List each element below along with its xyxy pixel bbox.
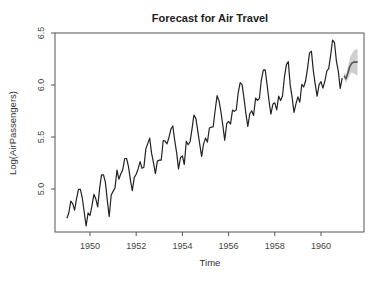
chart: Forecast for Air Travel 5.05.56.06.5 195…	[0, 0, 380, 281]
y-tick-label: 6.0	[36, 79, 46, 92]
x-tick-label: 1958	[265, 241, 285, 251]
y-tick-label: 5.5	[36, 131, 46, 144]
x-axis-label: Time	[200, 257, 221, 268]
plot-frame	[55, 33, 364, 232]
series-lines	[67, 40, 358, 226]
x-tick-label: 1956	[219, 241, 239, 251]
observed-line	[67, 40, 342, 226]
y-axis: 5.05.56.06.5	[36, 27, 55, 196]
x-tick-label: 1960	[311, 241, 331, 251]
x-tick-label: 1954	[172, 241, 192, 251]
chart-title: Forecast for Air Travel	[152, 12, 268, 24]
y-tick-label: 5.0	[36, 183, 46, 196]
x-tick-label: 1952	[126, 241, 146, 251]
y-tick-label: 6.5	[36, 27, 46, 40]
y-axis-label: Log(AirPassengers)	[7, 91, 18, 175]
x-tick-label: 1950	[80, 241, 100, 251]
x-axis: 195019521954195619581960	[80, 232, 331, 251]
